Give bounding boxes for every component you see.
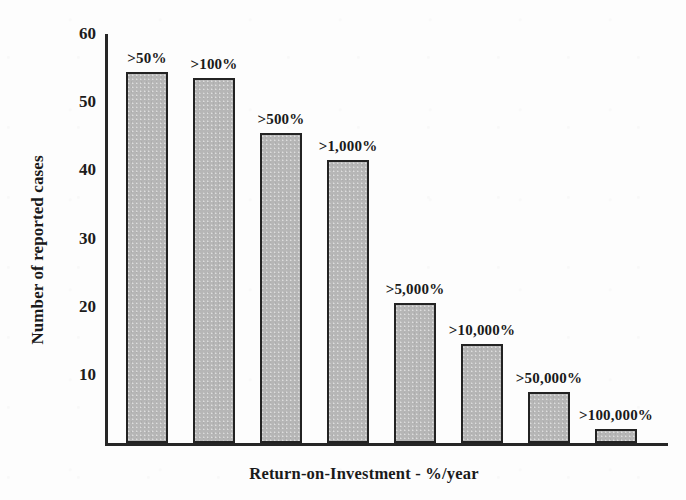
bar-group[interactable]: >5,000% bbox=[394, 303, 436, 443]
bar-rect[interactable] bbox=[260, 133, 302, 443]
bar-group[interactable]: >50% bbox=[126, 72, 168, 444]
bar-rect[interactable] bbox=[394, 303, 436, 443]
y-tick-label-50: 50 bbox=[50, 92, 96, 112]
bar-group[interactable]: >50,000% bbox=[528, 392, 570, 443]
bar-label: >50% bbox=[127, 50, 166, 67]
bar-group[interactable]: >1,000% bbox=[327, 160, 369, 443]
bar-group[interactable]: >10,000% bbox=[461, 344, 503, 443]
y-axis-title: Number of reported cases bbox=[18, 0, 58, 500]
bar-label: >1,000% bbox=[319, 138, 378, 155]
plot-area: 102030405060 >50%>100%>500%>1,000%>5,000… bbox=[105, 34, 665, 444]
bar-rect[interactable] bbox=[327, 160, 369, 443]
bar-label: >100,000% bbox=[579, 407, 653, 424]
bar-group[interactable]: >500% bbox=[260, 133, 302, 443]
bar-rect[interactable] bbox=[193, 78, 235, 443]
bar-label: >10,000% bbox=[449, 322, 515, 339]
chart-container: Number of reported cases 102030405060 >5… bbox=[0, 0, 686, 500]
bar-group[interactable]: >100% bbox=[193, 78, 235, 443]
bar-rect[interactable] bbox=[595, 429, 637, 443]
x-axis-title: Return-on-Investment - %/year bbox=[0, 464, 686, 484]
bars-layer: >50%>100%>500%>1,000%>5,000%>10,000%>50,… bbox=[105, 34, 665, 443]
y-tick-label-40: 40 bbox=[50, 160, 96, 180]
y-tick-label-20: 20 bbox=[50, 297, 96, 317]
bar-group[interactable]: >100,000% bbox=[595, 429, 637, 443]
bar-label: >100% bbox=[190, 56, 237, 73]
bar-rect[interactable] bbox=[461, 344, 503, 443]
x-axis-line bbox=[105, 443, 668, 446]
bar-label: >5,000% bbox=[386, 281, 445, 298]
bar-label: >50,000% bbox=[516, 370, 582, 387]
y-tick-label-60: 60 bbox=[50, 24, 96, 44]
bar-rect[interactable] bbox=[126, 72, 168, 444]
y-tick-label-30: 30 bbox=[50, 229, 96, 249]
bar-rect[interactable] bbox=[528, 392, 570, 443]
y-tick-label-10: 10 bbox=[50, 365, 96, 385]
bar-label: >500% bbox=[257, 111, 304, 128]
